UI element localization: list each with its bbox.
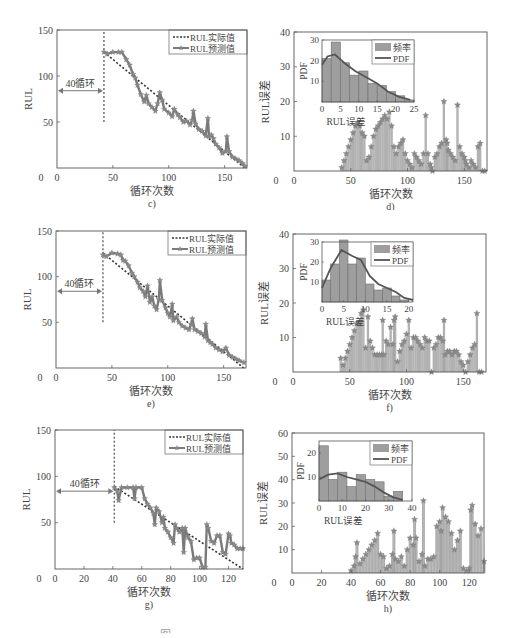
histogram-bar [331,264,340,302]
predicted-rul-line [103,253,244,363]
legend-pdf-label: PDF [391,455,408,465]
xtick-label: 0 [55,172,60,183]
xtick-label: 80 [405,577,415,588]
ytick-label: 150 [38,25,53,36]
ytick-label: 40 [278,474,288,485]
xtick-label: 0 [292,175,297,186]
arrow-right-icon [108,488,113,494]
subfigure-label: e) [147,398,155,410]
legend-actual-label: RUL实际值 [190,32,235,43]
inset-ylabel: PDF [296,462,306,479]
ytick-label: 10 [280,131,290,142]
origin-label: 0 [39,172,44,183]
xtick-label: 0 [53,573,58,584]
ytick-label: 30 [278,498,288,509]
origin-label: 0 [38,372,43,383]
histogram-bar [391,296,400,302]
ytick-label: 50 [41,517,51,528]
inset-xtick-label: 0 [320,104,325,114]
legend-frequency-swatch [373,444,389,452]
histogram-bar [328,479,337,501]
x-axis-label: 循环次数 [366,589,410,602]
legend-frequency-label: 频率 [391,443,409,454]
ytick-label: 20 [279,298,289,309]
chart-h: 0102030401020RUL误差PDF频率PDF02040608010012… [255,420,509,620]
chart-g: 40循环RUL实际值RUL预测值020406080100120501001500… [0,420,255,620]
xtick-label: 50 [345,376,355,387]
histogram-bar [331,42,340,102]
origin-label: 0 [273,376,278,387]
annotation-label: 40循环 [64,277,94,289]
inset-xtick-label: 20 [391,104,401,114]
inset-ytick-label: 30 [310,237,320,247]
subfigure-label: d) [386,201,394,210]
legend-frequency-label: 频率 [393,42,411,53]
xtick-label: 100 [432,577,447,588]
star-marker-icon [181,549,187,554]
star-marker-icon [152,522,158,527]
xtick-label: 50 [107,372,117,383]
star-marker-icon [144,92,150,97]
xtick-label: 0 [290,577,295,588]
xtick-label: 150 [456,376,471,387]
ytick-label: 30 [279,263,289,274]
star-marker-icon [224,134,230,139]
xtick-label: 150 [217,172,232,183]
inset-xtick-label: 25 [410,104,420,114]
annotation-label: 40循环 [65,77,95,89]
histogram-bar [348,264,357,302]
ytick-label: 50 [43,117,53,128]
ytick-label: 40 [280,27,290,38]
histogram-bar [322,59,331,102]
ytick-label: 100 [37,271,52,282]
legend-actual-label: RUL实际值 [186,432,231,443]
inset-xlabel: RUL误差 [324,515,363,526]
panel-e: 40循环RUL实际值RUL预测值050100150501001500循环次数e)… [0,210,255,420]
chart-d: 0510152025102030RUL误差PDF频率PDF05010015010… [255,0,509,210]
xtick-label: 100 [192,573,207,584]
x-axis-label: 循环次数 [130,184,174,197]
inset-xtick-label: 20 [361,503,371,513]
xtick-label: 80 [166,573,176,584]
legend-predicted-label: RUL预测值 [189,244,234,255]
ytick-label: 40 [279,229,289,240]
xtick-label: 0 [54,372,59,383]
xtick-label: 40 [346,577,356,588]
xtick-label: 100 [399,376,414,387]
histogram-bar [368,83,377,102]
origin-label: 0 [274,175,279,186]
ytick-label: 30 [280,61,290,72]
histogram-bar [356,475,365,501]
legend-predicted-label: RUL预测值 [190,43,235,54]
arrow-right-icon [97,288,102,294]
legend-predicted-label: RUL预测值 [186,443,231,454]
ytick-label: 20 [278,521,288,532]
inset-ytick-label: 20 [310,257,320,267]
xtick-label: 100 [160,372,175,383]
inset-xtick-label: 0 [320,304,325,314]
star-marker-icon [205,115,211,120]
xtick-label: 50 [108,172,118,183]
inset-xtick-label: 15 [383,304,393,314]
histogram-bar [339,240,348,302]
star-marker-icon [125,485,131,490]
chart-e: 40循环RUL实际值RUL预测值050100150501001500循环次数e)… [0,210,255,420]
histogram-bar [350,75,359,102]
inset-xtick-label: 20 [404,304,414,314]
xtick-label: 50 [346,175,356,186]
origin-label: 0 [272,577,277,588]
inset-xtick-label: 10 [354,104,364,114]
inset-ytick-label: 10 [307,472,317,482]
inset-ytick-label: 20 [310,56,320,66]
arrow-right-icon [98,88,103,94]
y-axis-label: RUL [22,88,34,110]
ytick-label: 100 [36,471,51,482]
legend-frequency-swatch [374,245,390,253]
inset-xtick-label: 10 [361,304,371,314]
xtick-label: 100 [400,175,415,186]
histogram-bar [374,290,383,302]
histogram-bar [365,284,374,302]
inset-xlabel: RUL误差 [327,116,366,127]
star-marker-icon [116,497,122,503]
legend-frequency-label: 频率 [392,244,410,255]
